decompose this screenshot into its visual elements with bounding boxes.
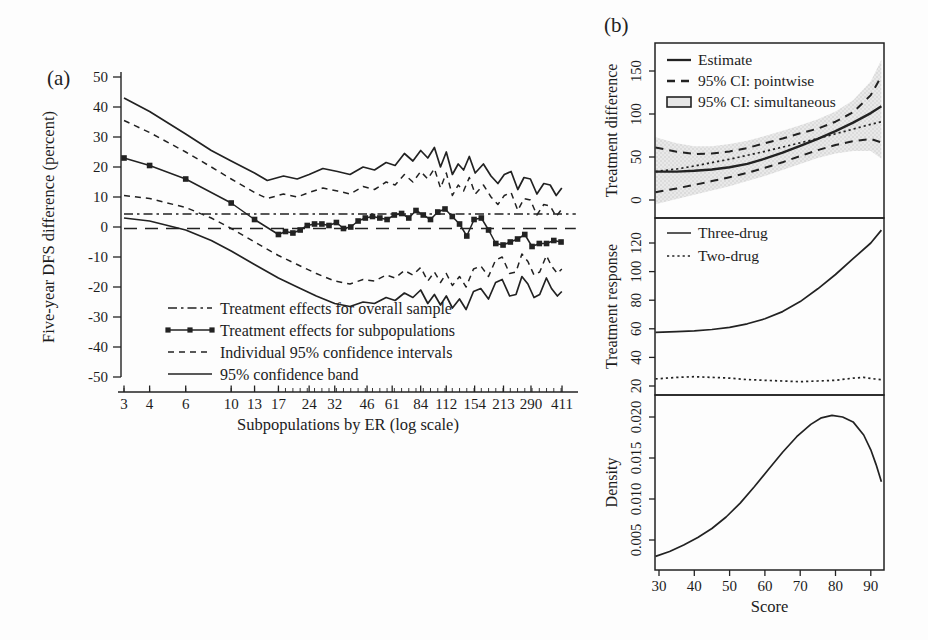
marker-square xyxy=(147,163,153,169)
svg-text:0: 0 xyxy=(101,219,109,235)
svg-text:Treatment effects for subpopul: Treatment effects for subpopulations xyxy=(220,322,455,340)
svg-text:Subpopulations by ER (log scal: Subpopulations by ER (log scale) xyxy=(237,415,459,434)
marker-square xyxy=(449,214,455,220)
svg-text:-40: -40 xyxy=(88,339,108,355)
panel-a-legend: Treatment effects for overall sampleTrea… xyxy=(165,300,455,383)
svg-text:46: 46 xyxy=(360,396,376,412)
svg-text:13: 13 xyxy=(247,396,262,412)
svg-text:95% CI: pointwise: 95% CI: pointwise xyxy=(698,72,814,89)
marker-square xyxy=(500,242,506,248)
marker-square xyxy=(183,176,189,182)
svg-text:3: 3 xyxy=(120,396,128,412)
svg-text:30: 30 xyxy=(652,578,667,594)
marker-square xyxy=(493,241,499,247)
svg-text:Score: Score xyxy=(751,597,789,616)
svg-text:Three-drug: Three-drug xyxy=(698,224,768,241)
marker-square xyxy=(121,155,127,161)
marker-square xyxy=(544,241,550,247)
marker-square xyxy=(228,200,234,206)
figure-canvas: (a) (b) 50403020100-10-20-30-40-50Five-y… xyxy=(0,0,928,640)
marker-square xyxy=(341,226,347,232)
svg-text:60: 60 xyxy=(628,322,644,337)
svg-text:30: 30 xyxy=(93,129,108,145)
series-two_drug_response xyxy=(656,377,882,382)
svg-text:40: 40 xyxy=(687,578,702,594)
svg-text:150: 150 xyxy=(628,60,644,82)
svg-text:24: 24 xyxy=(302,396,318,412)
svg-text:0.010: 0.010 xyxy=(628,483,644,516)
svg-text:213: 213 xyxy=(492,396,515,412)
marker-square xyxy=(529,244,535,250)
marker-square xyxy=(319,221,325,227)
marker-square xyxy=(420,212,426,218)
marker-square xyxy=(377,215,383,221)
score-panels-chart: 050100150Treatment differenceEstimate95%… xyxy=(600,0,928,640)
svg-text:-10: -10 xyxy=(88,249,108,265)
subpopulation-treatment-effect-chart: 50403020100-10-20-30-40-50Five-year DFS … xyxy=(0,0,600,640)
svg-text:50: 50 xyxy=(722,578,737,594)
marker-square xyxy=(252,217,258,223)
marker-square xyxy=(428,217,434,223)
svg-text:290: 290 xyxy=(520,396,543,412)
svg-text:90: 90 xyxy=(863,578,878,594)
marker-square xyxy=(334,220,340,226)
svg-text:60: 60 xyxy=(757,578,772,594)
svg-text:32: 32 xyxy=(327,396,342,412)
marker-square xyxy=(558,239,564,245)
marker-square xyxy=(312,221,318,227)
marker-square xyxy=(355,218,361,224)
marker-square xyxy=(479,215,485,221)
marker-square xyxy=(362,215,368,221)
svg-text:Treatment response: Treatment response xyxy=(603,244,621,369)
svg-text:100: 100 xyxy=(628,261,644,283)
svg-text:0: 0 xyxy=(628,196,644,203)
marker-square xyxy=(464,233,470,239)
svg-text:120: 120 xyxy=(628,232,644,254)
series-individual_ci_upper xyxy=(124,121,562,217)
svg-text:154: 154 xyxy=(463,396,486,412)
marker-square xyxy=(297,227,303,233)
svg-text:50: 50 xyxy=(628,150,644,165)
svg-text:50: 50 xyxy=(93,69,108,85)
svg-text:61: 61 xyxy=(385,396,400,412)
svg-text:-20: -20 xyxy=(88,279,108,295)
svg-text:10: 10 xyxy=(93,189,108,205)
marker-square xyxy=(399,211,405,217)
svg-text:95% CI: simultaneous: 95% CI: simultaneous xyxy=(698,93,836,110)
marker-square xyxy=(471,217,477,223)
svg-text:-50: -50 xyxy=(88,369,108,385)
marker-square xyxy=(276,232,282,238)
marker-square xyxy=(536,241,542,247)
svg-text:Two-drug: Two-drug xyxy=(698,247,759,264)
svg-text:-30: -30 xyxy=(88,309,108,325)
marker-square xyxy=(370,214,376,220)
svg-text:Individual 95% confidence inte: Individual 95% confidence intervals xyxy=(220,344,452,361)
marker-square xyxy=(392,212,398,218)
marker-square xyxy=(522,232,528,238)
marker-square xyxy=(442,206,448,212)
svg-text:411: 411 xyxy=(551,396,573,412)
svg-text:112: 112 xyxy=(435,396,457,412)
treatment_response_plot-legend: Three-drugTwo-drug xyxy=(667,224,768,264)
marker-square xyxy=(457,221,463,227)
series-three_drug_response xyxy=(656,230,882,332)
marker-square xyxy=(326,223,332,229)
svg-text:Density: Density xyxy=(603,458,621,508)
svg-text:95% confidence band: 95% confidence band xyxy=(220,366,359,383)
marker-square xyxy=(413,208,419,214)
svg-text:40: 40 xyxy=(628,350,644,365)
series-score_density xyxy=(656,415,882,556)
treatment_response_plot: 20406080100120Treatment responseThree-dr… xyxy=(603,218,884,395)
svg-text:17: 17 xyxy=(271,396,287,412)
score_density_plot: 0.0050.0100.0150.020Density3040506070809… xyxy=(603,395,884,616)
marker-square xyxy=(304,223,310,229)
svg-text:6: 6 xyxy=(182,396,190,412)
marker-square xyxy=(348,224,354,230)
marker-square xyxy=(515,236,521,242)
svg-text:70: 70 xyxy=(793,578,808,594)
svg-text:0.020: 0.020 xyxy=(628,401,644,434)
svg-text:Five-year DFS difference (perc: Five-year DFS difference (percent) xyxy=(39,111,58,343)
series-subpopulation_effects xyxy=(124,158,561,247)
svg-text:100: 100 xyxy=(628,103,644,125)
marker-square xyxy=(384,217,390,223)
